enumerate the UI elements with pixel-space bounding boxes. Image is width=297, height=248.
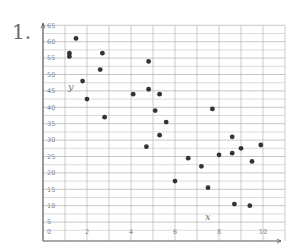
- data-point: [131, 92, 136, 97]
- data-point: [157, 133, 162, 138]
- data-point: [173, 179, 178, 184]
- y-tick-label: 0: [47, 228, 51, 236]
- y-tick-label: 35: [47, 120, 55, 128]
- grid-lines: [43, 25, 285, 241]
- data-point: [157, 92, 162, 97]
- data-point: [146, 87, 151, 92]
- data-point: [100, 51, 105, 56]
- x-tick-label: 2: [85, 228, 89, 236]
- data-point: [250, 159, 255, 164]
- y-tick-label: 15: [47, 186, 55, 194]
- data-point: [230, 151, 235, 156]
- y-tick-label: 40: [47, 104, 55, 112]
- data-point: [144, 144, 149, 149]
- x-axis-label: x: [205, 211, 211, 222]
- axes: [41, 23, 281, 243]
- data-point: [85, 97, 90, 102]
- data-point: [146, 59, 151, 64]
- data-point: [258, 143, 263, 148]
- y-tick-label: 55: [47, 54, 55, 62]
- data-point: [102, 115, 107, 120]
- y-tick-label: 60: [47, 38, 55, 46]
- data-point: [153, 108, 158, 113]
- data-point: [230, 134, 235, 139]
- data-point: [74, 36, 79, 41]
- data-point: [217, 152, 222, 157]
- y-tick-label: 65: [47, 22, 55, 30]
- data-point: [98, 67, 103, 72]
- data-point: [210, 107, 215, 112]
- x-tick-label: 8: [217, 228, 221, 236]
- y-tick-label: 25: [47, 153, 55, 161]
- x-tick-label: 4: [129, 228, 133, 236]
- y-tick-label: 50: [47, 71, 55, 79]
- data-point: [164, 120, 169, 125]
- y-axis-label: y: [67, 81, 74, 92]
- data-point: [186, 156, 191, 161]
- y-tick-label: 20: [47, 169, 55, 177]
- x-tick-label: 6: [173, 228, 177, 236]
- scatter-plot: 05101520253035404550556065246810 x y: [0, 0, 297, 248]
- data-point: [67, 54, 72, 59]
- data-point: [80, 79, 85, 84]
- data-point: [206, 185, 211, 190]
- y-tick-label: 5: [47, 218, 51, 226]
- y-tick-label: 30: [47, 136, 55, 144]
- data-point: [199, 164, 204, 169]
- data-points: [67, 36, 263, 208]
- data-point: [232, 202, 237, 207]
- data-point: [247, 203, 252, 208]
- y-tick-label: 45: [47, 87, 55, 95]
- x-tick-label: 10: [259, 228, 267, 236]
- y-tick-label: 10: [47, 202, 55, 210]
- data-point: [239, 146, 244, 151]
